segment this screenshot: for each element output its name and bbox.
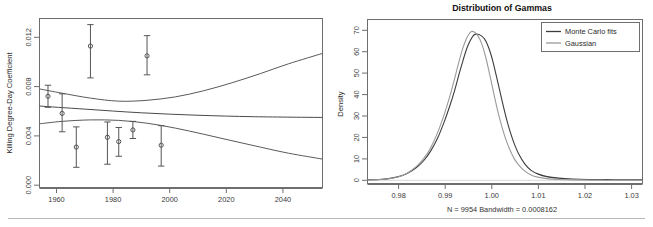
right-x-tick-label: 0.99 [438,191,452,200]
left-y-axis-title: Killing Degree-Day Coefficient [5,52,14,154]
right-x-tick-label: 1.03 [624,191,638,200]
left-plot-frame [40,19,323,188]
data-point-group [73,127,79,167]
right-x-tick-label: 1.02 [578,191,592,200]
confidence-band-lower-path [40,120,323,159]
density-curves [368,31,643,180]
right-plot-footer: N = 9954 Bandwidth = 0.0008162 [447,205,557,214]
right-plot-panel: Distribution of Gammas 0 10 20 30 [330,0,653,227]
left-plot-svg: 0.012 0.008 0.004 0.000 Killing Degree-D… [0,0,330,227]
density-curve-monte-carlo-fits [368,34,643,180]
data-point-group [158,126,164,166]
bottom-divider [8,218,645,219]
left-confidence-band-lower [40,120,323,159]
data-point-group [87,25,93,78]
right-y-tick-label: 20 [352,133,361,141]
right-y-axis-ticks [362,30,368,180]
left-x-tick-label: 1960 [48,195,64,204]
data-point-group [116,127,122,156]
left-x-tick-label: 2040 [275,195,291,204]
right-x-tick-label: 1.01 [531,191,545,200]
left-x-tick-label: 1980 [105,195,121,204]
left-x-tick-label: 2020 [218,195,234,204]
right-x-axis [368,185,643,190]
right-y-axis-title: Density [336,91,345,117]
right-x-tick-labels: 0.98 0.99 1.00 1.01 1.02 1.03 [391,191,638,200]
legend-label-monte-carlo: Monte Carlo fits [565,27,617,36]
figure-root: 0.012 0.008 0.004 0.000 Killing Degree-D… [0,0,653,227]
right-y-tick-label: 40 [352,90,361,98]
right-y-tick-labels: 0 10 20 30 40 50 60 70 [352,26,361,182]
legend-label-gaussian: Gaussian [565,39,596,48]
confidence-band-upper-path [40,53,323,101]
left-fit-line [40,106,323,117]
left-y-axis-ticks [34,37,40,185]
left-y-tick-label: 0.008 [24,77,33,96]
data-point-group [104,122,110,164]
fit-line-path [40,106,323,117]
left-x-tick-label: 2000 [161,195,177,204]
left-data-points [45,25,165,168]
right-plot-legend[interactable]: Monte Carlo fits Gaussian [542,23,640,52]
left-x-tick-labels: 1960 1980 2000 2020 2040 [48,195,291,204]
data-point-group [59,94,65,132]
right-x-tick-label: 1.00 [485,191,499,200]
left-y-tick-label: 0.012 [24,28,33,47]
data-point-group [130,121,136,138]
right-plot-title: Distribution of Gammas [452,3,552,13]
right-plot-svg: Distribution of Gammas 0 10 20 30 [330,0,653,227]
right-y-tick-label: 50 [352,69,361,77]
left-y-tick-labels: 0.012 0.008 0.004 0.000 [24,28,33,194]
left-plot-panel: 0.012 0.008 0.004 0.000 Killing Degree-D… [0,0,330,227]
left-confidence-band-upper [40,53,323,101]
right-y-tick-label: 70 [352,26,361,34]
right-y-tick-label: 10 [352,155,361,163]
right-x-tick-label: 0.98 [391,191,405,200]
left-y-tick-label: 0.004 [24,127,33,146]
data-point-group [144,36,150,75]
right-y-tick-label: 0 [352,178,361,182]
density-curve-gaussian [368,31,643,180]
right-y-tick-label: 30 [352,112,361,120]
left-x-axis [40,189,323,194]
right-y-tick-label: 60 [352,48,361,56]
data-point-group [45,85,51,107]
left-y-tick-label: 0.000 [24,176,33,195]
